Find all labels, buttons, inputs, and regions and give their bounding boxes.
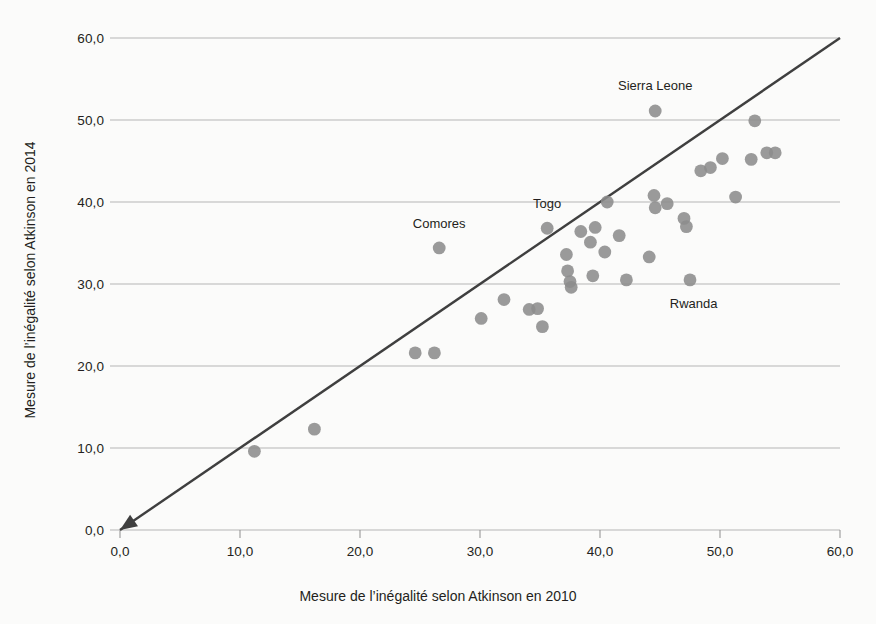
x-axis-title: Mesure de l’inégalité selon Atkinson en … xyxy=(0,588,876,604)
data-point xyxy=(428,346,441,359)
y-tick-label: 20,0 xyxy=(77,359,104,374)
data-point xyxy=(409,346,422,359)
y-tick-label: 30,0 xyxy=(77,277,104,292)
x-tick-label: 10,0 xyxy=(227,544,254,559)
data-point xyxy=(598,246,611,259)
data-point xyxy=(684,274,697,287)
point-label-sierra-leone: Sierra Leone xyxy=(618,78,692,93)
data-point xyxy=(541,222,554,235)
x-tick-label: 20,0 xyxy=(347,544,374,559)
data-point xyxy=(560,248,573,261)
data-point xyxy=(584,236,597,249)
data-point xyxy=(308,423,321,436)
x-tick-label: 30,0 xyxy=(467,544,494,559)
x-tick-label: 0,0 xyxy=(110,544,129,559)
y-tick-label: 60,0 xyxy=(77,31,104,46)
data-point xyxy=(498,293,511,306)
y-tick-label: 50,0 xyxy=(77,113,104,128)
data-point xyxy=(589,221,602,234)
data-point xyxy=(729,191,742,204)
plot-canvas xyxy=(0,0,876,624)
scatter-chart-figure: 0,010,020,030,040,050,060,0 0,010,020,03… xyxy=(0,0,876,624)
y-tick-label: 40,0 xyxy=(77,195,104,210)
data-point xyxy=(561,264,574,277)
x-tick-label: 60,0 xyxy=(827,544,854,559)
data-point xyxy=(649,201,662,214)
point-label-togo: Togo xyxy=(533,196,561,211)
point-label-comores: Comores xyxy=(413,216,466,231)
data-point xyxy=(586,269,599,282)
y-tick-label: 0,0 xyxy=(85,523,104,538)
data-points-group xyxy=(248,105,782,458)
data-point xyxy=(643,251,656,264)
data-point xyxy=(536,320,549,333)
arrowhead-icon xyxy=(120,515,138,530)
data-point xyxy=(649,105,662,118)
data-point xyxy=(716,152,729,165)
y-tick-marks-group xyxy=(110,38,120,530)
data-point xyxy=(661,197,674,210)
data-point xyxy=(648,189,661,202)
x-tick-marks-group xyxy=(120,530,840,538)
y-tick-label: 10,0 xyxy=(77,441,104,456)
data-point xyxy=(769,146,782,159)
data-point xyxy=(531,302,544,315)
data-point xyxy=(620,274,633,287)
data-point xyxy=(248,445,261,458)
x-tick-label: 40,0 xyxy=(587,544,614,559)
data-point xyxy=(433,242,446,255)
data-point xyxy=(745,153,758,166)
data-point xyxy=(601,196,614,209)
data-point xyxy=(574,225,587,238)
data-point xyxy=(748,114,761,127)
data-point xyxy=(704,161,717,174)
data-point xyxy=(680,220,693,233)
point-label-rwanda: Rwanda xyxy=(670,296,718,311)
data-point xyxy=(565,281,578,294)
data-point xyxy=(475,312,488,325)
y-axis-title: Mesure de l’inégalité selon Atkinson en … xyxy=(22,0,38,560)
data-point xyxy=(613,229,626,242)
x-tick-label: 50,0 xyxy=(707,544,734,559)
